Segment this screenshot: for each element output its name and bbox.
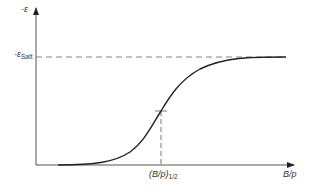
x-axis-label: B/p bbox=[283, 170, 297, 179]
half-point-main: (B/p) bbox=[149, 169, 169, 179]
sigmoid-curve bbox=[58, 57, 286, 165]
sat-subscript: Satt bbox=[21, 53, 33, 60]
y-axis-symbol: ε bbox=[24, 4, 28, 14]
sigmoid-diagram bbox=[0, 0, 309, 189]
half-point-subscript: 1/2 bbox=[169, 173, 178, 180]
half-point-label: (B/p)1/2 bbox=[149, 170, 178, 179]
saturation-label: -εSatt bbox=[14, 50, 33, 59]
y-axis-label: -ε bbox=[21, 5, 28, 14]
